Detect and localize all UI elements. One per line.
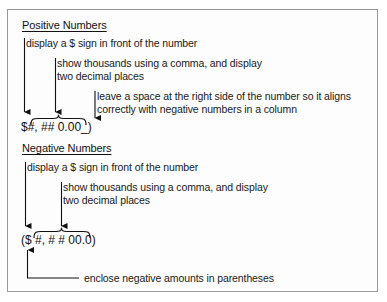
positive-numbers-heading: Positive Numbers — [22, 19, 107, 32]
negative-numbers-heading: Negative Numbers — [22, 142, 112, 155]
negative-annotation-dollar-sign: display a $ sign in front of the number — [27, 161, 198, 174]
negative-annotation-thousands-line1: show thousands using a comma, and displa… — [63, 181, 268, 194]
negative-format-string: ($ #, # # 00.0) — [21, 233, 96, 247]
negative-annotation-parentheses: enclose negative amounts in parentheses — [84, 272, 274, 285]
positive-annotation-thousands-line1: show thousands using a comma, and displa… — [57, 57, 262, 70]
positive-annotation-space-line2: correctly with negative numbers in a col… — [97, 103, 297, 116]
positive-annotation-dollar-sign: display a $ sign in front of the number — [26, 37, 197, 50]
positive-format-string: $#, ## 0.00_) — [21, 120, 92, 134]
negative-annotation-thousands-line2: two decimal places — [63, 194, 150, 207]
positive-annotation-space-line1: leave a space at the right side of the n… — [97, 90, 351, 103]
positive-annotation-thousands-line2: two decimal places — [57, 70, 144, 83]
number-format-diagram: Positive Numbers display a $ sign in fro… — [0, 0, 387, 302]
